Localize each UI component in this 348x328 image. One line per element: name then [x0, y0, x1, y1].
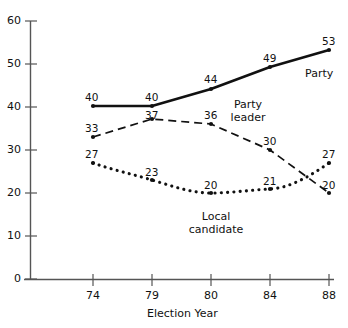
data-point	[268, 187, 272, 191]
data-point	[327, 161, 331, 165]
data-point	[268, 65, 272, 69]
series-label-local-candidate-line2: candidate	[183, 224, 249, 235]
y-tick-label-50: 50	[7, 58, 21, 69]
value-label-local-candidate-80: 20	[204, 180, 217, 191]
data-point	[327, 191, 331, 195]
value-label-party-leader-84: 30	[263, 136, 276, 147]
data-point	[91, 161, 95, 165]
series-label-party-leader-line1: Party	[226, 99, 270, 110]
value-label-party-leader-88: 20	[322, 180, 335, 191]
x-tick-label-84: 84	[263, 290, 277, 301]
value-label-local-candidate-84: 21	[263, 176, 276, 187]
x-axis-title: Election Year	[147, 308, 218, 319]
value-label-party-88: 53	[322, 36, 335, 47]
series-label-local-candidate-line1: Local	[183, 211, 249, 222]
value-label-party-leader-79: 37	[145, 110, 158, 121]
value-label-local-candidate-88: 27	[322, 149, 335, 160]
y-tick-label-0: 0	[14, 273, 21, 284]
data-point	[209, 87, 213, 91]
y-tick-label-40: 40	[7, 101, 21, 112]
y-tick-label-30: 30	[7, 144, 21, 155]
x-tick-label-80: 80	[204, 290, 218, 301]
chart-container: 60 50 40 30 20 10 0 74 79 80 84 88 Elect…	[0, 0, 348, 328]
series-label-party-leader-line2: leader	[226, 112, 270, 123]
x-tick-label-88: 88	[322, 290, 336, 301]
value-label-party-74: 40	[85, 92, 98, 103]
y-tick-label-60: 60	[7, 15, 21, 26]
value-label-party-79: 40	[145, 92, 158, 103]
value-label-local-candidate-79: 23	[145, 167, 158, 178]
data-point	[209, 191, 213, 195]
y-tick-label-20: 20	[7, 187, 21, 198]
data-point	[150, 104, 154, 108]
x-tick-label-74: 74	[86, 290, 100, 301]
data-point	[327, 48, 331, 52]
chart-plot-area	[0, 0, 348, 328]
data-point	[150, 178, 154, 182]
y-tick-label-10: 10	[7, 230, 21, 241]
x-tick-label-79: 79	[145, 290, 159, 301]
value-label-party-leader-74: 33	[85, 123, 98, 134]
data-point	[91, 135, 95, 139]
data-point	[91, 104, 95, 108]
data-point	[209, 122, 213, 126]
value-label-party-80: 44	[204, 74, 217, 85]
value-label-party-84: 49	[263, 53, 276, 64]
series-label-party: Party	[305, 68, 333, 79]
value-label-local-candidate-74: 27	[85, 149, 98, 160]
data-point	[268, 148, 272, 152]
value-label-party-leader-80: 36	[204, 110, 217, 121]
